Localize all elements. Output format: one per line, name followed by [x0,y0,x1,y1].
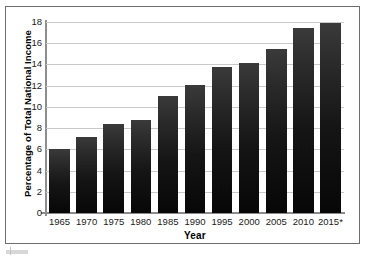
y-axis-title: Percentage of Total National Income [22,24,33,204]
bar [158,96,179,213]
bar [320,23,341,213]
x-axis-tick-labels: 1965197019751980198519901995200020052010… [46,216,344,230]
gridline [46,213,344,214]
bar [49,149,70,213]
bar [212,67,233,213]
bar [185,85,206,213]
bar [239,63,260,213]
bar [266,49,287,213]
bar [103,124,124,213]
bar [131,120,152,213]
bar [76,137,97,213]
scan-artifact-mark [10,247,11,255]
figure-canvas: 024681012141618 196519701975198019851990… [0,0,366,260]
x-axis-title: Year [46,230,344,241]
bar [293,28,314,213]
x-axis-tick-label: 2015* [315,216,346,228]
plot-area [46,22,344,213]
y-axis-tick-label: 0 [16,208,42,218]
gridline [46,22,344,23]
